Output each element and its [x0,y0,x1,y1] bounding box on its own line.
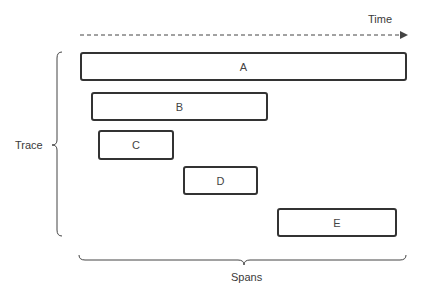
span-d: D [183,166,258,195]
span-d-label: D [217,175,225,187]
span-c-label: C [132,139,140,151]
trace-label: Trace [15,139,43,151]
span-e: E [277,208,397,237]
trace-brace [52,52,62,236]
span-e-label: E [333,217,340,229]
span-b-label: B [176,101,183,113]
diagram-lines [0,0,429,292]
spans-label: Spans [231,271,262,283]
span-b: B [91,92,268,121]
span-a: A [80,52,407,81]
time-label: Time [368,13,392,25]
spans-brace [79,255,406,265]
span-a-label: A [240,61,247,73]
time-arrow-head [400,31,408,39]
span-c: C [98,130,174,160]
